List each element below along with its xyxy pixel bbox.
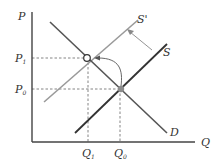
shift-arrow-icon — [127, 29, 152, 50]
q1-label: Q1 — [82, 147, 95, 160]
supply-shifted-label: S' — [137, 13, 148, 26]
movement-arrow-icon — [94, 56, 122, 87]
new-equilibrium-point — [84, 55, 91, 62]
supply-label: S — [163, 46, 171, 59]
p0-label: P0 — [14, 83, 26, 96]
supply-demand-diagram: P Q P1 P0 Q1 Q0 D S S' — [0, 0, 219, 162]
y-axis-label: P — [17, 10, 26, 23]
initial-equilibrium-point — [118, 86, 124, 92]
x-axis-label: Q — [201, 136, 210, 149]
q0-label: Q0 — [114, 147, 127, 160]
demand-label: D — [169, 126, 179, 139]
demand-curve — [50, 22, 167, 133]
p1-label: P1 — [14, 52, 26, 65]
